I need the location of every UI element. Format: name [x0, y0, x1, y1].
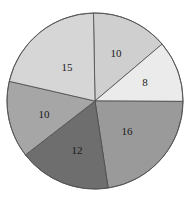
pie-slice-label: 12	[72, 144, 83, 156]
pie-slice-label: 16	[122, 125, 134, 137]
pie-slice-label: 8	[142, 76, 148, 88]
pie-chart: 10816121015	[0, 0, 188, 201]
pie-slices	[7, 13, 183, 189]
pie-slice-label: 15	[62, 61, 74, 73]
pie-slice-c	[95, 101, 183, 188]
pie-chart-canvas: 10816121015	[0, 0, 188, 201]
pie-slice-label: 10	[39, 108, 51, 120]
pie-slice-label: 10	[111, 47, 123, 59]
